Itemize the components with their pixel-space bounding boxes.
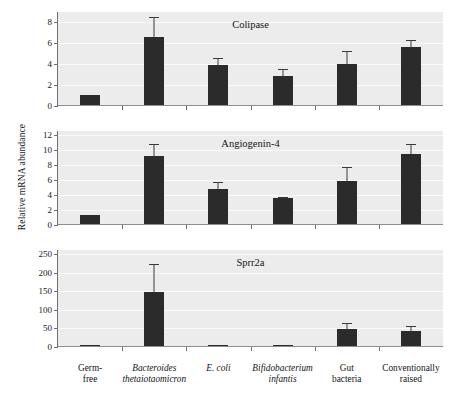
y-axis-tick-label: 6 — [48, 39, 53, 48]
error-bar — [154, 17, 155, 38]
bar — [273, 345, 293, 347]
error-bar-cap — [149, 264, 159, 265]
bar — [401, 47, 421, 105]
error-bar-cap — [213, 182, 223, 183]
y-axis-tick — [54, 180, 58, 181]
x-axis-label-4: Gutbacteria — [332, 363, 361, 385]
bar — [337, 181, 357, 224]
y-axis-tick — [54, 64, 58, 65]
y-axis-tick-label: 250 — [39, 250, 53, 259]
x-axis-tick — [186, 225, 187, 229]
y-axis-tick-label: 4 — [48, 60, 53, 69]
y-axis-title: Relative mRNA abundance — [17, 97, 27, 257]
gridline — [58, 310, 443, 311]
gridline — [58, 210, 443, 211]
y-axis-tick — [54, 225, 58, 226]
y-axis-tick — [54, 310, 58, 311]
x-axis-tick — [379, 347, 380, 351]
error-bar-cap — [406, 326, 416, 327]
y-axis-tick — [54, 254, 58, 255]
x-axis-tick — [251, 225, 252, 229]
y-axis-tick — [54, 291, 58, 292]
y-axis-tick — [54, 273, 58, 274]
gridline — [58, 43, 443, 44]
x-axis-label-line1: Conventionally — [382, 363, 439, 374]
x-axis-label-line1: Bacteroides — [122, 363, 186, 374]
bar — [208, 345, 228, 347]
x-axis-label-5: Conventionallyraised — [382, 363, 439, 385]
x-axis-label-line2: infantis — [252, 374, 312, 385]
error-bar-cap — [406, 144, 416, 145]
gridline — [58, 165, 443, 166]
error-bar — [410, 40, 411, 48]
y-axis-tick — [54, 347, 58, 348]
x-axis-label-line2: thetaiotaomicron — [122, 374, 186, 385]
y-axis-tick-label: 0 — [48, 343, 53, 352]
x-axis-tick — [122, 106, 123, 110]
x-axis-label-line1: E. coli — [206, 363, 230, 374]
x-axis-label-line1: Germ- — [78, 363, 102, 374]
bar — [144, 156, 164, 224]
y-axis-tick — [54, 195, 58, 196]
x-axis-tick — [122, 347, 123, 351]
figure-root: Relative mRNA abundance Colipase02468 An… — [0, 0, 449, 398]
bar — [208, 189, 228, 224]
y-axis-tick-label: 0 — [48, 102, 53, 111]
chart-panel-sprr2a: Sprr2a050100150200250 — [58, 250, 443, 347]
x-axis-tick — [379, 225, 380, 229]
x-axis-tick — [186, 106, 187, 110]
y-axis-tick — [54, 210, 58, 211]
x-axis-tick — [315, 225, 316, 229]
x-axis-tick — [315, 106, 316, 110]
panel-title-sprr2a: Sprr2a — [58, 257, 443, 268]
bar — [80, 215, 100, 224]
y-axis-tick-label: 10 — [43, 146, 52, 155]
x-axis-tick — [186, 347, 187, 351]
y-axis-tick — [54, 135, 58, 136]
x-axis-label-1: Bacteroidesthetaiotaomicron — [122, 363, 186, 385]
y-axis-tick — [54, 22, 58, 23]
x-axis-tick — [122, 225, 123, 229]
y-axis-tick — [54, 165, 58, 166]
x-axis-label-3: Bifidobacteriuminfantis — [252, 363, 312, 385]
error-bar-cap — [278, 69, 288, 70]
x-axis-tick — [251, 106, 252, 110]
gridline — [58, 135, 443, 136]
x-axis-tick — [251, 347, 252, 351]
chart-panel-angiogenin-4: Angiogenin-4024681012 — [58, 131, 443, 225]
y-axis-tick-label: 8 — [48, 18, 53, 27]
error-bar-cap — [149, 17, 159, 18]
gridline — [58, 85, 443, 86]
bar — [401, 154, 421, 224]
error-bar — [346, 51, 347, 65]
gridline — [58, 254, 443, 255]
x-axis-label-line2: bacteria — [332, 374, 361, 385]
error-bar — [346, 323, 347, 330]
y-axis-tick-label: 100 — [39, 305, 53, 314]
error-bar-cap — [342, 51, 352, 52]
bar — [80, 95, 100, 105]
gridline — [58, 273, 443, 274]
bar — [80, 345, 100, 347]
y-axis-tick-label: 8 — [48, 161, 53, 170]
x-axis-label-line2: raised — [382, 374, 439, 385]
y-axis-tick-label: 2 — [48, 206, 53, 215]
gridline — [58, 180, 443, 181]
bar — [401, 331, 421, 346]
y-axis-tick — [54, 43, 58, 44]
panel-title-colipase: Colipase — [58, 19, 443, 30]
error-bar — [282, 69, 283, 77]
error-bar-cap — [278, 197, 288, 198]
gridline — [58, 64, 443, 65]
x-axis-label-line1: Bifidobacterium — [252, 363, 312, 374]
error-bar — [410, 144, 411, 154]
error-bar-cap — [213, 58, 223, 59]
y-axis-tick-label: 12 — [43, 131, 52, 140]
bar — [144, 292, 164, 346]
bar — [144, 37, 164, 105]
gridline — [58, 328, 443, 329]
gridline — [58, 150, 443, 151]
panel-title-angiogenin-4: Angiogenin-4 — [58, 138, 443, 149]
error-bar — [218, 58, 219, 66]
plot-area-sprr2a: Sprr2a — [58, 250, 443, 347]
